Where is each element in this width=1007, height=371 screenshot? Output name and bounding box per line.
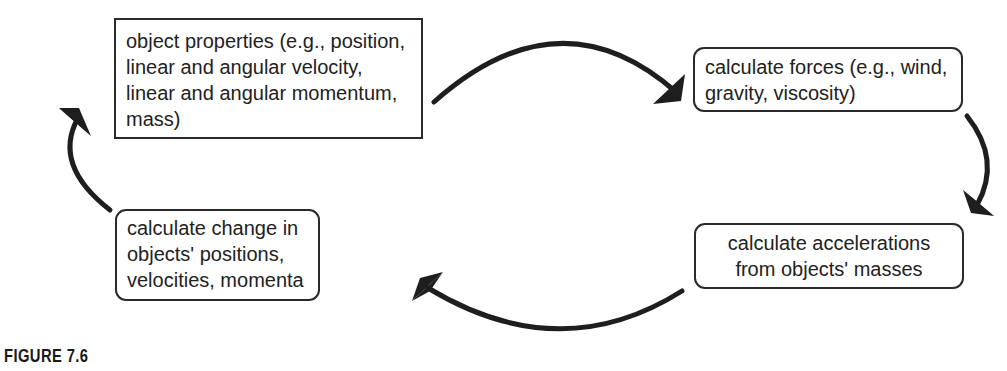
node-object-properties: object properties (e.g., position, linea… xyxy=(114,18,423,139)
node-text-line: calculate accelerations xyxy=(706,230,952,256)
node-text-line: mass) xyxy=(126,106,411,132)
node-text-line: from objects' masses xyxy=(706,256,952,282)
node-calculate-accelerations: calculate accelerations from objects' ma… xyxy=(694,223,964,289)
node-text-line: calculate change in xyxy=(127,215,308,241)
node-text-line: object properties (e.g., position, xyxy=(126,28,411,54)
node-calculate-change: calculate change in objects' positions, … xyxy=(115,209,320,301)
node-text-line: linear and angular momentum, xyxy=(126,80,411,106)
node-calculate-forces: calculate forces (e.g., wind, gravity, v… xyxy=(693,47,963,112)
node-text-line: velocities, momenta xyxy=(127,267,308,293)
arrow-accelerations-to-change xyxy=(412,272,682,329)
figure-caption: FIGURE 7.6 xyxy=(4,346,88,367)
arrow-change-to-properties xyxy=(59,108,110,210)
node-text-line: calculate forces (e.g., wind, xyxy=(705,54,951,80)
node-text-line: linear and angular velocity, xyxy=(126,54,411,80)
arrow-forces-to-accelerations xyxy=(963,116,994,216)
arrow-properties-to-forces xyxy=(434,43,685,104)
node-text-line: gravity, viscosity) xyxy=(705,80,951,106)
node-text-line: objects' positions, xyxy=(127,241,308,267)
